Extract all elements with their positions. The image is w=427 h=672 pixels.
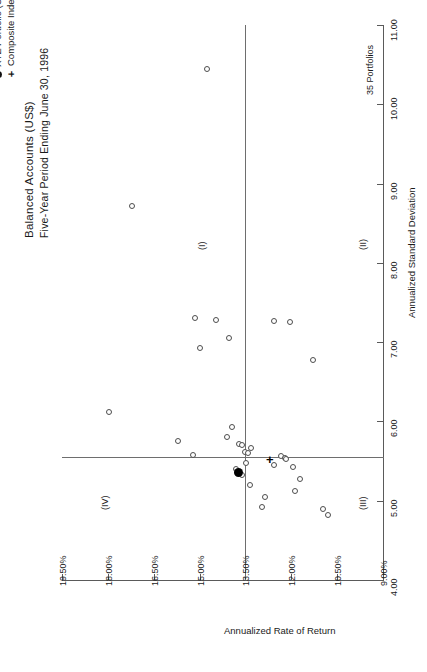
portfolio-point-marker	[229, 424, 235, 430]
stddev-tick-label: 9.00	[389, 182, 399, 200]
stddev-tick-label: 11.00	[389, 19, 399, 41]
portfolio-point-marker	[197, 345, 203, 351]
portfolio-point-marker	[297, 476, 303, 482]
stddev-tick-label: 10.00	[389, 98, 399, 121]
stddev-tick	[377, 184, 384, 185]
stddev-tick-label: 7.00	[389, 341, 399, 359]
portfolio-point-marker	[129, 203, 135, 209]
portfolio-point-marker	[283, 456, 289, 462]
portfolio-point-marker	[226, 335, 232, 341]
portfolio-count-label: 35 Portfolios	[365, 45, 375, 95]
stddev-tick	[377, 263, 384, 264]
y-axis-title: Annualized Rate of Return	[224, 625, 335, 636]
portfolio-point-marker	[204, 66, 210, 72]
portfolio-point-marker	[239, 442, 245, 448]
page-subtitle: Five-Year Period Ending June 30, 1996	[37, 0, 51, 238]
portfolio-point-marker	[292, 488, 298, 494]
page-title: Balanced Accounts (US$)	[22, 0, 37, 238]
portfolio-point-marker	[271, 318, 277, 324]
portfolio-point-marker	[247, 482, 253, 488]
quadrant-label-2: (II)	[358, 239, 368, 250]
quadrant-label-4: (IV)	[100, 496, 110, 511]
portfolio-point-marker	[287, 319, 293, 325]
return-tick-label: 19.50%	[58, 555, 68, 586]
stddev-tick	[377, 342, 384, 343]
median-stddev-line	[245, 25, 246, 580]
portfolio-point-marker	[175, 438, 181, 444]
quadrant-label-1: (I)	[197, 242, 207, 251]
plus-marker-icon: +	[7, 70, 15, 78]
x-axis-title: Annualized Standard Deviation	[406, 188, 417, 318]
composite-index-marker: +	[266, 455, 274, 464]
stddev-tick	[377, 25, 384, 26]
stddev-tick-label: 6.00	[389, 420, 399, 438]
legend-item-composite-index: + Composite Index (US$)	[5, 0, 18, 78]
return-tick-label: 13.50%	[241, 555, 251, 586]
portfolio-point-marker	[325, 512, 331, 518]
return-tick-label: 18.00%	[104, 555, 114, 586]
return-tick-label: 15.00%	[196, 555, 206, 586]
standard-deviation-axis-line	[383, 25, 384, 580]
portfolio-point-marker	[320, 506, 326, 512]
portfolio-point-marker	[224, 434, 230, 440]
stddev-tick-label: 5.00	[389, 499, 399, 517]
filled-circle-icon	[0, 71, 2, 78]
stddev-tick	[377, 501, 384, 502]
stddev-tick	[377, 104, 384, 105]
portfolio-point-marker	[310, 357, 316, 363]
portfolio-point-marker	[259, 504, 265, 510]
portfolio-point-marker	[243, 460, 249, 466]
return-tick-label: 9.00%	[379, 560, 389, 586]
portfolio-point-marker	[245, 450, 251, 456]
return-tick-label: 16.50%	[150, 555, 160, 586]
stddev-tick	[377, 421, 384, 422]
return-tick-label: 12.00%	[287, 555, 297, 586]
portfolio-point-marker	[106, 409, 112, 415]
stddev-tick-label: 4.00	[389, 578, 399, 596]
quadrant-label-3: (III)	[358, 497, 368, 511]
legend-label-composite-index: Composite Index (US$)	[5, 0, 18, 66]
portfolio-point-marker	[192, 315, 198, 321]
median-return-line	[62, 457, 384, 458]
portfolio-point-marker	[290, 464, 296, 470]
chart-legend: XYZ Portfolio (US$) + Composite Index (U…	[0, 0, 17, 78]
stddev-tick-label: 8.00	[389, 261, 399, 279]
portfolio-point-marker	[213, 317, 219, 323]
portfolio-point-marker	[262, 494, 268, 500]
return-tick-label: 10.50%	[333, 555, 343, 586]
chart-title-block: Balanced Accounts (US$) Five-Year Period…	[22, 0, 62, 238]
